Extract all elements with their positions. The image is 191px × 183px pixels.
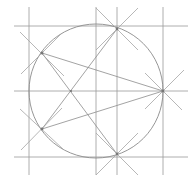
vertex-point-bottom xyxy=(116,153,119,156)
vertex-point-right xyxy=(162,90,165,93)
center-mark-point xyxy=(70,90,72,92)
vertex-point-lower-left xyxy=(41,128,44,131)
diagonal-upperleft-to-bottom xyxy=(42,53,117,154)
vertex-ticks-right xyxy=(145,70,184,110)
vertex-point-top xyxy=(116,28,119,31)
diagonal-lowerleft-to-top xyxy=(42,29,117,129)
vertex-point-upper-left xyxy=(41,52,44,55)
pentagon-construction-diagram xyxy=(0,0,191,183)
